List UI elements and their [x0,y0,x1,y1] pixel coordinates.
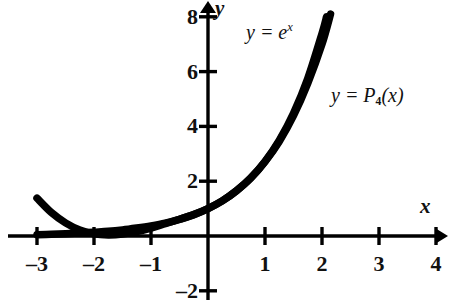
x-tick-label: –2 [81,253,107,275]
y-tick-label: 6 [160,61,198,83]
y-tick-label: 8 [160,6,198,28]
x-tick-label: –1 [138,253,164,275]
exp-label-superscript: x [287,20,293,34]
chart-figure: –3–2–11234 8642–2 x y y = ex y = P4(x) [0,0,451,305]
x-axis-label: x [420,196,431,217]
exp-label-prefix: y = e [246,21,287,43]
x-tick-label: 3 [366,253,392,275]
y-tick-label: 4 [160,115,198,137]
y-tick-label: –2 [160,280,198,302]
y-tick-label: 2 [160,170,198,192]
poly-label-prefix: y = P [331,84,376,106]
x-tick-label: 2 [309,253,335,275]
x-tick-label: –3 [24,253,50,275]
x-tick-label: 1 [252,253,278,275]
y-axis-arrowhead [200,1,216,13]
poly-label-suffix: (x) [381,84,403,106]
y-axis-label: y [215,0,224,19]
curve-annotation-exponential: y = ex [246,22,293,42]
curve-annotation-taylor-polynomial: y = P4(x) [331,85,404,105]
tick-marks-group [37,17,436,291]
x-tick-label: 4 [423,253,449,275]
